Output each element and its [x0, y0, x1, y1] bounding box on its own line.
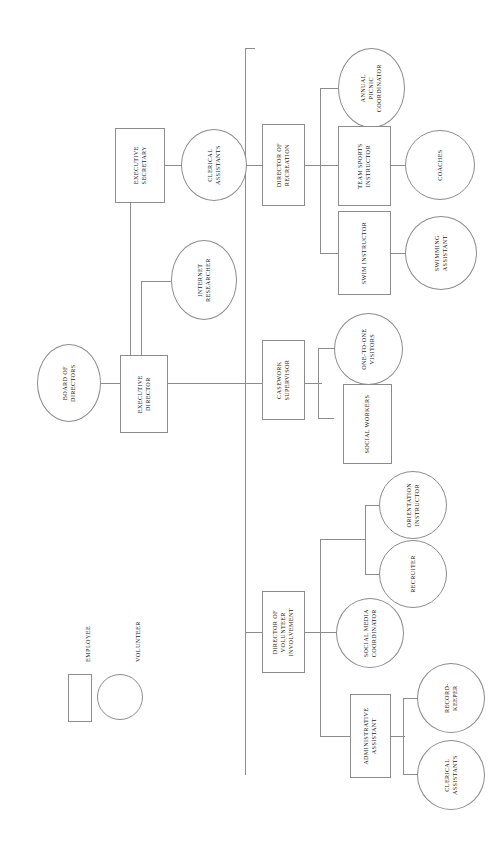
node-label: CASEWORKSUPERVISOR: [275, 360, 291, 401]
edge-dirrec-teamsports: [320, 165, 338, 166]
node-social-media-coordinator[interactable]: SOCIAL MEDIACOORDINATOR: [336, 598, 404, 668]
node-director-of-volunteer-involvement[interactable]: DIRECTOR OFVOLUNTEERINVOLVEMENT: [262, 591, 305, 673]
node-label: SOCIAL MEDIACOORDINATOR: [362, 609, 378, 657]
node-board-of-directors[interactable]: BOARD OFDIRECTORS: [37, 344, 101, 422]
node-label: RECRUITER: [409, 555, 417, 593]
node-label: CLERICALASSISTANTS: [443, 755, 459, 795]
node-label: SOCIAL WORKERS: [363, 395, 371, 454]
edge-trunk-dirvol: [245, 632, 262, 633]
edge-execdir-trunk: [168, 383, 246, 384]
casework-children-bar: [318, 348, 319, 418]
edge-execdir-internet-arm: [141, 281, 171, 282]
node-clerical-assistants-admin[interactable]: CLERICALASSISTANTS: [417, 740, 485, 810]
edge-subbar-orientation: [365, 505, 379, 506]
node-label: ANNUALPICNICCOORDINATOR: [359, 64, 384, 112]
edge-dirvol-adminasst: [320, 736, 350, 737]
dirvol-sub-children-bar: [365, 505, 366, 574]
edge-trunk-dirrec: [245, 165, 262, 166]
node-label: INTERNETRESEARCHER: [196, 258, 212, 302]
edge-dirrec-picnic: [320, 88, 338, 89]
edge-adminasst-recordkeeper: [403, 698, 417, 699]
node-clerical-assistants-exec[interactable]: CLERICALASSISTANTS: [181, 129, 247, 201]
edge-dirvol-subbar: [320, 539, 365, 540]
node-swimming-assistant[interactable]: SWIMMINGASSISTANT: [405, 216, 477, 290]
node-label: ONE-TO-ONEVISITORS: [360, 328, 376, 369]
node-label: DIRECTOR OFVOLUNTEERINVOLVEMENT: [271, 608, 296, 656]
node-casework-supervisor[interactable]: CASEWORKSUPERVISOR: [262, 340, 305, 420]
edge-board-execdir: [100, 383, 120, 384]
node-label: BOARD OFDIRECTORS: [61, 364, 77, 401]
node-team-sports-instructor[interactable]: TEAM SPORTSINSTRUCTOR: [338, 126, 391, 206]
node-record-keeper[interactable]: RECORD-KEEPER: [417, 663, 485, 733]
legend-employee-label: EMPLOYEE: [84, 626, 91, 662]
org-chart: EMPLOYEE VOLUNTEER BO: [0, 0, 501, 865]
node-label: SWIMMINGASSISTANT: [433, 235, 449, 271]
node-one-to-one-visitors[interactable]: ONE-TO-ONEVISITORS: [334, 313, 403, 385]
node-label: CLERICALASSISTANTS: [206, 145, 222, 185]
edge-execsec-clerical: [165, 165, 181, 166]
node-label: COACHES: [436, 149, 444, 180]
edge-subbar-recruiter: [365, 574, 379, 575]
legend-employee-shape: [68, 674, 92, 722]
edge-teamsports-coaches: [391, 165, 405, 166]
node-social-workers[interactable]: SOCIAL WORKERS: [343, 384, 392, 464]
dirvol-children-bar: [320, 539, 321, 736]
node-recruiter[interactable]: RECRUITER: [379, 540, 447, 608]
edge-swim-swimasst: [391, 253, 405, 254]
node-label: TEAM SPORTSINSTRUCTOR: [356, 143, 372, 188]
node-director-of-recreation[interactable]: DIRECTOR OFRECREATION: [262, 124, 305, 206]
legend-volunteer-label: VOLUNTEER: [134, 621, 141, 662]
node-administrative-assistant[interactable]: ADMINISTRATIVEASSISTANT: [350, 694, 391, 778]
edge-execdir-execsec-riser: [130, 203, 131, 355]
node-label: ADMINISTRATIVEASSISTANT: [362, 707, 378, 764]
edge-adminasst-clerical: [403, 774, 417, 775]
edge-execdir-internet-riser: [141, 281, 142, 355]
node-executive-director[interactable]: EXECUTIVEDIRECTOR: [120, 355, 168, 433]
node-label: SWIM INSTRUCTOR: [360, 222, 368, 284]
node-label: DIRECTOR OFRECREATION: [275, 143, 291, 187]
node-label: EXECUTIVESECRETARY: [132, 146, 148, 184]
main-trunk-top-cap: [245, 48, 255, 49]
node-label: EXECUTIVEDIRECTOR: [136, 375, 152, 413]
node-coaches[interactable]: COACHES: [405, 130, 475, 200]
edge-dirvol-socialmedia: [320, 632, 336, 633]
adminasst-children-bar: [403, 698, 404, 774]
edge-dirrec-swim: [320, 253, 338, 254]
node-label: RECORD-KEEPER: [443, 683, 459, 713]
node-label: ORIENTATIONINSTRUCTOR: [405, 483, 421, 528]
edge-casework-out: [305, 383, 322, 384]
edge-casework-onetoone: [318, 348, 334, 349]
legend-volunteer-shape: [97, 674, 143, 720]
edge-trunk-casework: [245, 383, 262, 384]
edge-casework-socialwork: [318, 418, 334, 419]
dirrec-children-bar: [320, 88, 321, 254]
node-swim-instructor[interactable]: SWIM INSTRUCTOR: [338, 211, 391, 295]
node-executive-secretary[interactable]: EXECUTIVESECRETARY: [115, 128, 165, 203]
node-orientation-instructor[interactable]: ORIENTATIONINSTRUCTOR: [379, 471, 447, 539]
node-internet-researcher[interactable]: INTERNETRESEARCHER: [171, 240, 237, 320]
node-annual-picnic-coordinator[interactable]: ANNUALPICNICCOORDINATOR: [338, 48, 405, 128]
